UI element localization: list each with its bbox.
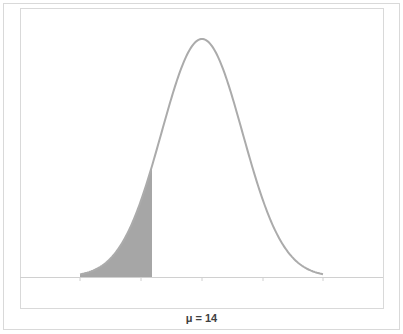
normal-distribution-chart: [0, 0, 403, 334]
normal-curve: [80, 39, 323, 274]
shaded-left-tail: [80, 166, 152, 277]
mean-label: μ = 14: [0, 312, 403, 324]
